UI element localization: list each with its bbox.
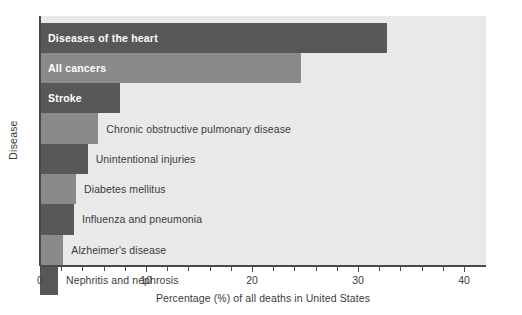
x-tick-major — [464, 266, 465, 272]
x-tick-major — [252, 266, 253, 272]
bar-label: Diabetes mellitus — [84, 174, 166, 204]
x-tick-minor — [167, 266, 168, 271]
bar-row: Diabetes mellitus — [40, 174, 486, 204]
bar-label: Influenza and pneumonia — [82, 204, 202, 234]
bar-label: Diseases of the heart — [48, 23, 158, 53]
x-tick-minor — [379, 266, 380, 271]
bar[interactable] — [40, 113, 98, 143]
bar[interactable] — [40, 144, 88, 174]
bar-row: Unintentional injuries — [40, 144, 486, 174]
x-tick-minor — [443, 266, 444, 271]
bar-label: Stroke — [48, 83, 82, 113]
x-tick-label: 20 — [246, 274, 258, 286]
bar[interactable] — [40, 204, 74, 234]
bar[interactable] — [40, 174, 76, 204]
x-axis-line — [40, 265, 486, 267]
bar-row: All cancers — [40, 53, 486, 83]
x-tick-minor — [104, 266, 105, 271]
bar-chart: Disease Diseases of the heartAll cancers… — [0, 0, 522, 315]
x-tick-minor — [188, 266, 189, 271]
bar-row: Stroke — [40, 83, 486, 113]
bar-label: Alzheimer's disease — [71, 235, 166, 265]
bars-layer: Diseases of the heartAll cancersStrokeCh… — [40, 16, 486, 265]
x-tick-minor — [125, 266, 126, 271]
x-axis-title: Percentage (%) of all deaths in United S… — [40, 292, 486, 304]
bar-row: Nephritis and nephrosis — [40, 265, 486, 295]
x-tick-major — [40, 266, 41, 272]
bar-row: Chronic obstructive pulmonary disease — [40, 113, 486, 143]
bar-row: Alzheimer's disease — [40, 235, 486, 265]
x-tick-label: 0 — [37, 274, 43, 286]
bar-label: All cancers — [48, 53, 106, 83]
bar-label: Chronic obstructive pulmonary disease — [106, 113, 291, 143]
y-axis-title-label: Disease — [7, 120, 19, 159]
bar-label: Unintentional injuries — [96, 144, 196, 174]
y-axis-title: Disease — [0, 0, 26, 280]
bar-row: Influenza and pneumonia — [40, 204, 486, 234]
x-tick-minor — [422, 266, 423, 271]
bar[interactable] — [40, 235, 63, 265]
plot-area: Diseases of the heartAll cancersStrokeCh… — [40, 16, 486, 265]
y-axis-line — [39, 16, 41, 266]
x-tick-label: 40 — [458, 274, 470, 286]
x-tick-label: 10 — [140, 274, 152, 286]
x-tick-minor — [316, 266, 317, 271]
x-tick-minor — [400, 266, 401, 271]
x-tick-label: 30 — [352, 274, 364, 286]
bar-row: Diseases of the heart — [40, 23, 486, 53]
x-tick-minor — [61, 266, 62, 271]
x-tick-minor — [337, 266, 338, 271]
x-tick-minor — [231, 266, 232, 271]
x-tick-major — [146, 266, 147, 272]
x-tick-minor — [294, 266, 295, 271]
x-tick-major — [358, 266, 359, 272]
x-tick-minor — [82, 266, 83, 271]
x-tick-minor — [273, 266, 274, 271]
x-tick-minor — [210, 266, 211, 271]
